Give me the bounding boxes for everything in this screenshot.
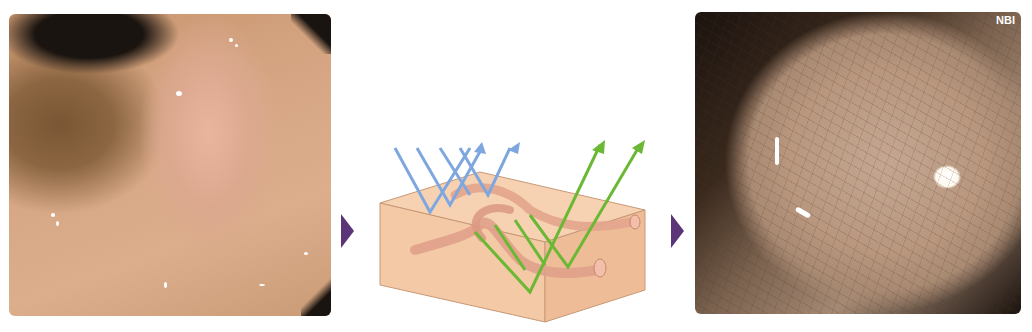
blue-arrow-head <box>474 142 486 154</box>
green-arrow-head <box>632 140 645 154</box>
light-reflection <box>229 38 233 42</box>
light-reflection <box>775 137 779 165</box>
light-reflection <box>176 91 182 96</box>
light-reflection <box>164 282 167 288</box>
white-light-endoscopy-image <box>9 14 331 316</box>
scope-vignette <box>301 276 331 316</box>
light-reflection <box>56 221 59 226</box>
nbi-mode-label: NBI <box>996 14 1015 26</box>
next-step-arrow <box>671 214 684 248</box>
light-reflection <box>304 252 308 255</box>
nbi-light-penetration-diagram <box>370 140 660 330</box>
microvessel-pattern <box>695 12 1021 314</box>
scope-vignette <box>291 14 331 54</box>
light-reflection <box>51 213 55 217</box>
light-reflection <box>235 44 238 47</box>
light-reflection <box>259 284 265 286</box>
nbi-endoscopy-image: NBI <box>695 12 1021 314</box>
vessel-cross-section <box>630 215 640 229</box>
green-arrow-head <box>592 140 605 154</box>
vessel-cross-section <box>594 259 606 277</box>
next-step-arrow <box>341 214 354 248</box>
